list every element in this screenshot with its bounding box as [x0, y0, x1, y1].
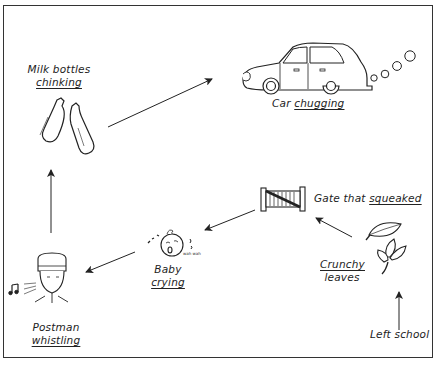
arrow-baby-to-postman [86, 252, 135, 272]
sprig-icon [378, 239, 406, 274]
leaf-icon [366, 223, 401, 240]
label-line: Left school [370, 328, 429, 340]
label-line: Car [272, 97, 294, 109]
label-postman: Postman whistling [28, 321, 84, 347]
label-gate: Gate that squeaked [314, 192, 422, 205]
label-line: Milk bottles [24, 63, 94, 76]
music-note-icon [9, 284, 18, 295]
gate-icon [261, 187, 305, 211]
label-crunchy-leaves: Crunchy leaves [320, 258, 364, 284]
label-line: leaves [320, 271, 364, 284]
exhaust-puffs-icon [371, 51, 415, 81]
label-line: Baby [143, 263, 193, 276]
arrow-leaves-to-gate [316, 218, 352, 237]
milk-bottles-icon [40, 98, 94, 154]
arrow-gate-to-baby [205, 210, 255, 230]
label-underlined: Crunchy [320, 258, 364, 271]
label-left-school: Left school [370, 328, 429, 341]
label-underlined: squeaked [369, 192, 422, 204]
label-baby: Baby crying [143, 263, 193, 289]
diagram-artwork [0, 0, 438, 367]
arrow-milk-to-car [108, 79, 212, 127]
baby-sound-text: wah wah [183, 251, 201, 256]
label-line: Postman [28, 321, 84, 334]
postman-icon [24, 253, 68, 303]
car-icon [243, 43, 372, 94]
label-underlined: crying [143, 276, 193, 289]
label-underlined: chugging [294, 97, 344, 109]
label-underlined: chinking [24, 76, 94, 89]
label-milk-bottles: Milk bottles chinking [24, 63, 94, 89]
label-car: Car chugging [272, 97, 344, 110]
label-underlined: whistling [28, 334, 84, 347]
label-line: Gate that [314, 192, 369, 204]
